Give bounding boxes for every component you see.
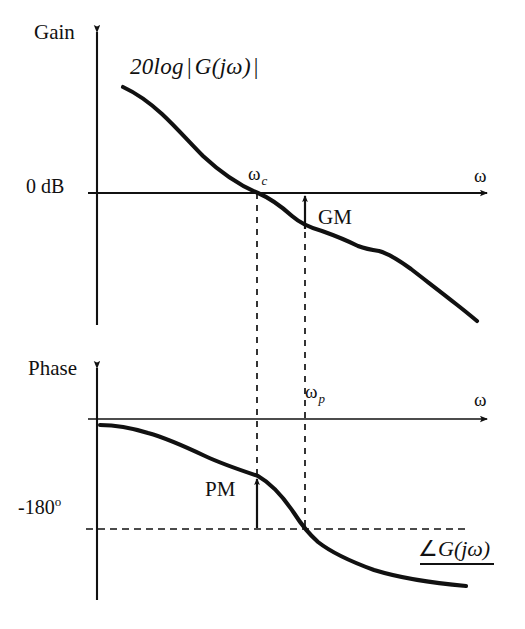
minus-180-tick-label: -180o	[18, 495, 61, 517]
gain-crossover-frequency-label: ωc	[248, 164, 267, 187]
gain-curve	[123, 87, 477, 321]
gain-curve-label-body: G(jω)	[195, 54, 251, 79]
minus-180-value: -180	[18, 496, 55, 518]
phase-plot-group	[86, 368, 487, 600]
phase-margin-label: PM	[205, 479, 235, 500]
gain-x-axis-label: ω	[474, 166, 487, 185]
phase-curve-label-body: G(jω)	[438, 536, 490, 561]
degree-symbol: o	[55, 494, 62, 509]
phase-curve	[100, 425, 466, 586]
gain-curve-label: 20log|G(jω)|	[130, 55, 262, 78]
magnitude-bar-open: |	[184, 54, 195, 79]
phase-x-axis-label: ω	[474, 390, 487, 409]
magnitude-bar-close: |	[251, 54, 262, 79]
omega-c-base: ω	[248, 163, 261, 184]
phase-curve-label: ∠G(jω)	[418, 538, 490, 560]
gain-axis-label: Gain	[34, 22, 75, 43]
bode-plot-svg	[0, 0, 525, 629]
gain-margin-label: GM	[318, 207, 352, 228]
figure-canvas: Gain Phase 0 dB -180o 20log|G(jω)| ωc ωp…	[0, 0, 525, 629]
angle-icon: ∠	[418, 536, 438, 561]
phase-axis-label: Phase	[28, 358, 77, 379]
phase-crossover-frequency-label: ωp	[305, 382, 325, 405]
omega-p-subscript: p	[318, 391, 326, 406]
zero-db-tick-label: 0 dB	[26, 176, 64, 196]
omega-p-base: ω	[305, 381, 318, 402]
omega-c-subscript: c	[261, 173, 268, 188]
gain-curve-label-prefix: 20log	[130, 54, 184, 79]
